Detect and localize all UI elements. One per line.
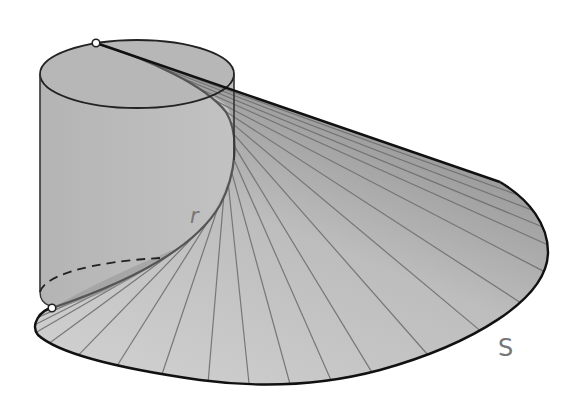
bottom-point xyxy=(48,304,56,312)
surface-label-s: S xyxy=(498,336,513,360)
diagram-canvas: r S xyxy=(0,0,580,403)
top-point xyxy=(92,39,100,47)
developable-surface-figure xyxy=(0,0,580,403)
curve-label-r: r xyxy=(190,206,199,227)
